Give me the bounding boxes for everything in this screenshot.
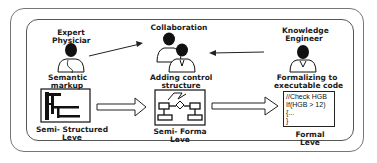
collaboration-label: Collaboration: [148, 24, 210, 32]
semi-formal-icon: [155, 90, 205, 125]
formal-level-label: Formal Leve: [290, 131, 330, 147]
semi-structured-icon: [41, 89, 90, 122]
semi-structured-level-label: Semi- Structured Leve: [32, 126, 112, 142]
semi-formal-level-label: Semi- Forma Leve: [150, 128, 210, 144]
control-structure-label: Adding control structure: [150, 74, 212, 90]
code-line: {...: [286, 109, 332, 117]
code-line: }: [286, 117, 332, 125]
expert-label: Expert Physiciar: [52, 29, 90, 45]
expert-physician-icon: [58, 43, 84, 73]
collaboration-icon: [157, 33, 195, 73]
code-line: If(HGB > 12): [286, 101, 332, 109]
code-line: //Check HGB: [286, 93, 332, 101]
semantic-markup-label: Semantic markup: [48, 74, 86, 90]
engineer-label: Knowledge Engineer: [282, 27, 326, 43]
formalizing-label: Formalizing to executable code: [274, 74, 340, 90]
knowledge-engineer-icon: [290, 45, 316, 72]
code-snippet-box: //Check HGB If(HGB > 12) {... }: [283, 91, 335, 127]
